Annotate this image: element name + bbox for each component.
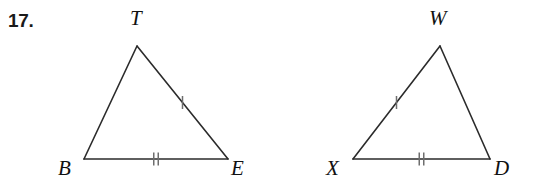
- triangles-diagram: [0, 0, 538, 195]
- vertex-label-t: T: [130, 8, 142, 29]
- side-bt: [84, 46, 137, 159]
- vertex-label-x: X: [326, 158, 339, 179]
- triangle-xwd: [353, 46, 490, 166]
- geometry-problem-figure: 17. BTEXWD: [0, 0, 538, 195]
- vertex-label-e: E: [231, 158, 244, 179]
- vertex-label-d: D: [494, 158, 509, 179]
- vertex-label-b: B: [58, 158, 71, 179]
- triangle-bte: [84, 46, 228, 166]
- vertex-label-w: W: [429, 8, 447, 29]
- side-wd: [440, 46, 490, 159]
